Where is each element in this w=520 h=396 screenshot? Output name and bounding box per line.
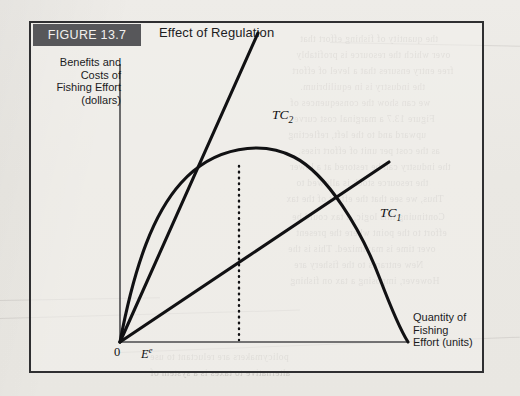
figure-box: FIGURE 13.7 Effect of Regulation Benefit… xyxy=(29,21,484,373)
equilibrium-label-text: E xyxy=(141,347,149,361)
x-axis-label: Quantity of Fishing Effort (units) xyxy=(413,311,493,349)
equilibrium-label: Ee xyxy=(141,345,152,362)
plot-area: Benefits and Costs of Fishing Effort (do… xyxy=(31,23,486,375)
y-axis-label: Benefits and Costs of Fishing Effort (do… xyxy=(39,56,121,106)
tc1-curve-label: TC1 xyxy=(380,205,401,223)
equilibrium-label-superscript: e xyxy=(149,345,153,355)
tc2-curve-label-subscript: 2 xyxy=(289,115,294,125)
tc1-curve-label-text: TC xyxy=(380,205,397,220)
tc2-curve-label: TC2 xyxy=(272,107,293,125)
origin-label: 0 xyxy=(114,345,120,360)
tc2-curve-label-text: TC xyxy=(272,107,289,122)
tc1-curve-label-subscript: 1 xyxy=(397,213,402,223)
